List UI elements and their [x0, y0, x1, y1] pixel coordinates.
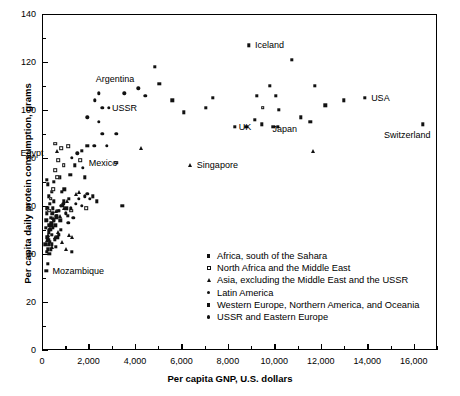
- data-point: [260, 123, 263, 126]
- x-axis-tick: [414, 344, 415, 350]
- y-axis-tick: [42, 302, 48, 303]
- data-point: [80, 204, 83, 207]
- data-point: [107, 106, 110, 109]
- y-axis-tick: [42, 230, 46, 231]
- data-point: [44, 242, 48, 246]
- data-point: [290, 58, 293, 61]
- data-point: [80, 149, 83, 152]
- data-point: [86, 192, 89, 195]
- data-point: [123, 91, 126, 94]
- data-point: [67, 221, 70, 224]
- annotation-label: Singapore: [197, 160, 238, 170]
- data-point: [95, 199, 98, 202]
- x-axis-tick: [367, 344, 368, 350]
- data-point: [182, 111, 185, 114]
- data-point: [44, 269, 47, 272]
- data-point: [58, 219, 61, 222]
- data-point: [144, 94, 147, 97]
- data-point: [70, 156, 73, 159]
- x-axis-tick: [88, 344, 89, 350]
- y-axis-tick-label: 0: [0, 345, 36, 355]
- x-axis-tick: [112, 346, 113, 350]
- legend-marker-icon: [207, 315, 217, 318]
- legend-item: North Africa and the Middle East: [207, 262, 419, 274]
- data-point: [60, 240, 64, 244]
- data-point: [62, 202, 65, 205]
- data-point: [188, 163, 192, 167]
- data-point: [46, 233, 50, 237]
- data-point: [77, 190, 81, 194]
- data-point: [56, 230, 60, 234]
- data-point: [54, 245, 57, 248]
- legend-marker-icon: [207, 278, 217, 282]
- data-point: [120, 204, 123, 207]
- data-point: [101, 106, 104, 109]
- data-point: [79, 159, 83, 163]
- data-point: [62, 206, 66, 210]
- data-point: [255, 94, 258, 97]
- legend-item: Latin America: [207, 287, 419, 299]
- data-point: [101, 132, 104, 135]
- data-point: [105, 144, 108, 147]
- data-point: [247, 43, 250, 46]
- y-axis-tick: [42, 62, 48, 63]
- data-point: [86, 115, 89, 118]
- data-point: [97, 91, 100, 94]
- data-point: [59, 147, 63, 151]
- data-point: [46, 183, 49, 186]
- legend-label: Asia, excluding the Middle East and the …: [217, 275, 408, 285]
- data-point: [86, 144, 89, 147]
- legend-item: USSR and Eastern Europe: [207, 311, 419, 323]
- data-point: [268, 84, 271, 87]
- annotation-label: Switzerland: [384, 130, 431, 140]
- y-axis-tick: [42, 158, 48, 159]
- data-point: [54, 223, 57, 226]
- data-point: [342, 99, 345, 102]
- annotation-label: Japan: [272, 124, 297, 134]
- data-point: [93, 144, 96, 147]
- y-axis-tick: [42, 86, 46, 87]
- legend-label: USSR and Eastern Europe: [217, 312, 328, 322]
- legend-item: Western Europe, Northern America, and Oc…: [207, 299, 419, 311]
- x-axis-tick: [274, 344, 275, 350]
- y-axis-tick: [42, 110, 48, 111]
- data-point: [158, 82, 161, 85]
- legend-marker-icon: [207, 266, 217, 270]
- y-axis-tick-label: 140: [0, 9, 36, 19]
- data-point: [76, 151, 79, 154]
- y-axis-tick: [42, 14, 48, 15]
- data-point: [81, 166, 84, 169]
- x-axis-tick-label: 14,000: [354, 356, 382, 366]
- data-point: [91, 195, 94, 198]
- data-point: [153, 65, 156, 68]
- data-point: [233, 125, 236, 128]
- data-point: [211, 96, 214, 99]
- data-point: [63, 187, 66, 190]
- data-point: [277, 108, 280, 111]
- data-point: [65, 199, 69, 203]
- x-axis-tick: [437, 346, 438, 350]
- annotation-label: UK: [239, 122, 252, 132]
- data-point: [137, 87, 140, 90]
- x-axis-tick-label: 4,000: [124, 356, 147, 366]
- data-point: [421, 123, 424, 126]
- data-point: [70, 235, 74, 239]
- x-axis-tick: [181, 344, 182, 350]
- data-point: [309, 120, 312, 123]
- annotation-label: USA: [371, 93, 390, 103]
- data-point: [170, 99, 173, 102]
- x-axis-tick: [135, 344, 136, 350]
- data-point: [56, 159, 60, 163]
- data-point: [53, 142, 57, 146]
- y-axis-tick: [42, 326, 46, 327]
- data-point: [58, 214, 62, 218]
- data-point: [313, 84, 316, 87]
- x-axis-tick-label: 8,000: [217, 356, 240, 366]
- data-point: [45, 238, 49, 242]
- data-point: [55, 149, 59, 153]
- legend-marker-icon: [207, 303, 217, 306]
- data-point: [45, 219, 48, 222]
- data-point: [51, 187, 55, 191]
- legend-item: Asia, excluding the Middle East and the …: [207, 274, 419, 286]
- data-point: [115, 132, 118, 135]
